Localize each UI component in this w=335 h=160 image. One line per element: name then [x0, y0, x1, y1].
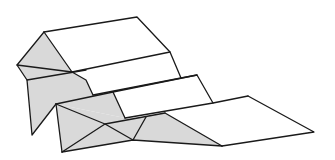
origami-diagram — [0, 0, 335, 160]
folded-paper-illustration — [0, 0, 335, 160]
